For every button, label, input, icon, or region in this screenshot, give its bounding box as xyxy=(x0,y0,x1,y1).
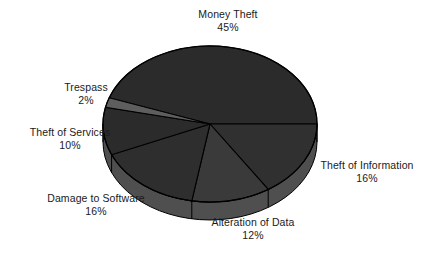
slice-label-theft-of-services: Theft of Services 10% xyxy=(8,126,132,152)
slice-label-trespass-name: Trespass xyxy=(64,81,108,93)
slice-label-theft-of-services-pct: 10% xyxy=(8,139,132,152)
pie-top-face xyxy=(103,46,317,202)
slice-label-money-theft-name: Money Theft xyxy=(198,8,257,20)
slice-label-alteration-of-data-pct: 12% xyxy=(188,229,318,242)
slice-label-money-theft-pct: 45% xyxy=(158,21,298,34)
slice-label-damage-to-software-pct: 16% xyxy=(24,205,168,218)
slice-label-alteration-of-data-name: Alteration of Data xyxy=(212,216,295,228)
slice-label-theft-of-information-name: Theft of Information xyxy=(320,159,413,171)
slice-label-damage-to-software: Damage to Software 16% xyxy=(24,192,168,218)
pie-chart-figure: Money Theft 45% Theft of Information 16%… xyxy=(0,0,434,258)
slice-label-trespass: Trespass 2% xyxy=(36,81,136,107)
slice-label-damage-to-software-name: Damage to Software xyxy=(47,192,145,204)
slice-label-money-theft: Money Theft 45% xyxy=(158,8,298,34)
slice-label-theft-of-information-pct: 16% xyxy=(300,172,434,185)
slice-label-trespass-pct: 2% xyxy=(36,94,136,107)
slice-label-theft-of-services-name: Theft of Services xyxy=(30,126,110,138)
slice-label-theft-of-information: Theft of Information 16% xyxy=(300,159,434,185)
slice-label-alteration-of-data: Alteration of Data 12% xyxy=(188,216,318,242)
